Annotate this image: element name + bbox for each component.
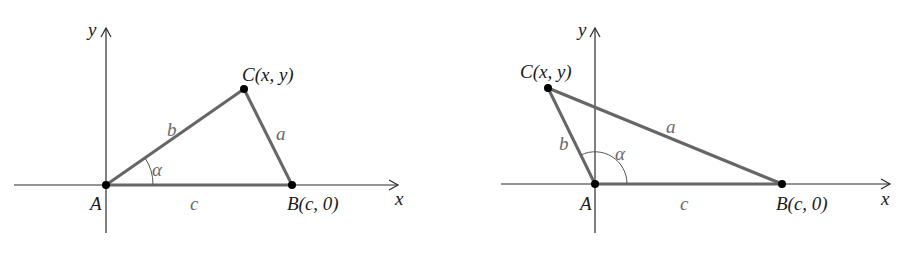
- y-axis-label: y: [576, 19, 587, 40]
- point-a-label: A: [88, 193, 102, 214]
- side-a: [548, 88, 782, 184]
- side-a-label: a: [666, 116, 676, 137]
- side-b-label: b: [559, 133, 569, 154]
- angle-alpha-label: α: [152, 159, 163, 180]
- panel-obtuse: x y A B(c, 0) C(x, y) b a c α: [501, 19, 890, 233]
- point-b-label: B(c, 0): [287, 193, 339, 215]
- side-b: [548, 88, 595, 184]
- x-axis-label: x: [880, 188, 890, 209]
- law-of-cosines-figure: x y A B(c, 0) C(x, y) b a c α x y: [0, 0, 916, 253]
- angle-alpha-label: α: [615, 143, 626, 164]
- point-b: [778, 180, 786, 188]
- point-c: [544, 84, 552, 92]
- point-a: [102, 181, 110, 189]
- side-c-label: c: [680, 193, 689, 214]
- y-axis-label: y: [86, 19, 97, 40]
- side-a-label: a: [276, 123, 286, 144]
- point-c-label: C(x, y): [242, 64, 294, 86]
- point-b-label: B(c, 0): [776, 193, 828, 215]
- point-a-label: A: [578, 193, 592, 214]
- point-c: [240, 85, 248, 93]
- side-b-label: b: [167, 119, 177, 140]
- side-c-label: c: [190, 193, 199, 214]
- point-c-label: C(x, y): [520, 61, 572, 83]
- point-b: [288, 181, 296, 189]
- point-a: [591, 180, 599, 188]
- x-axis-label: x: [394, 188, 404, 209]
- panel-acute: x y A B(c, 0) C(x, y) b a c α: [14, 19, 404, 233]
